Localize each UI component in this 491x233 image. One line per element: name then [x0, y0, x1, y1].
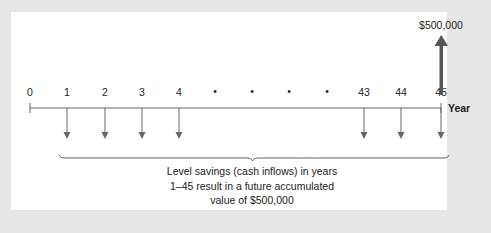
brace: [59, 155, 449, 161]
ellipsis-dot: •: [250, 85, 254, 97]
axis-year-label: Year: [448, 102, 470, 114]
year-tick-label: 4: [176, 86, 182, 98]
caption-line-3: value of $500,000: [132, 193, 372, 208]
year-tick-label: 1: [64, 86, 70, 98]
ellipsis-dot: •: [325, 85, 329, 97]
ellipsis-dot: •: [213, 85, 217, 97]
down-arrow-icon: [176, 108, 183, 139]
down-arrow-icon: [64, 108, 71, 139]
caption: Level savings (cash inflows) in years 1–…: [132, 164, 372, 208]
down-arrow-icon: [438, 108, 445, 139]
tick-labels: 01234••••434445: [27, 85, 447, 98]
caption-line-2: 1–45 result in a future accumulated: [132, 179, 372, 194]
year-tick-label: 2: [102, 86, 108, 98]
ellipsis-dot: •: [287, 85, 291, 97]
down-arrow-icon: [139, 108, 146, 139]
cash-inflow-arrows: [64, 108, 445, 139]
down-arrow-icon: [361, 108, 368, 139]
year-tick-label: 43: [358, 86, 370, 98]
year-tick-label: 44: [395, 86, 407, 98]
down-arrow-icon: [398, 108, 405, 139]
year-tick-label: 0: [27, 86, 33, 98]
future-value-label: $500,000: [419, 19, 463, 31]
year-tick-label: 3: [139, 86, 145, 98]
down-arrow-icon: [102, 108, 109, 139]
caption-line-1: Level savings (cash inflows) in years: [132, 164, 372, 179]
